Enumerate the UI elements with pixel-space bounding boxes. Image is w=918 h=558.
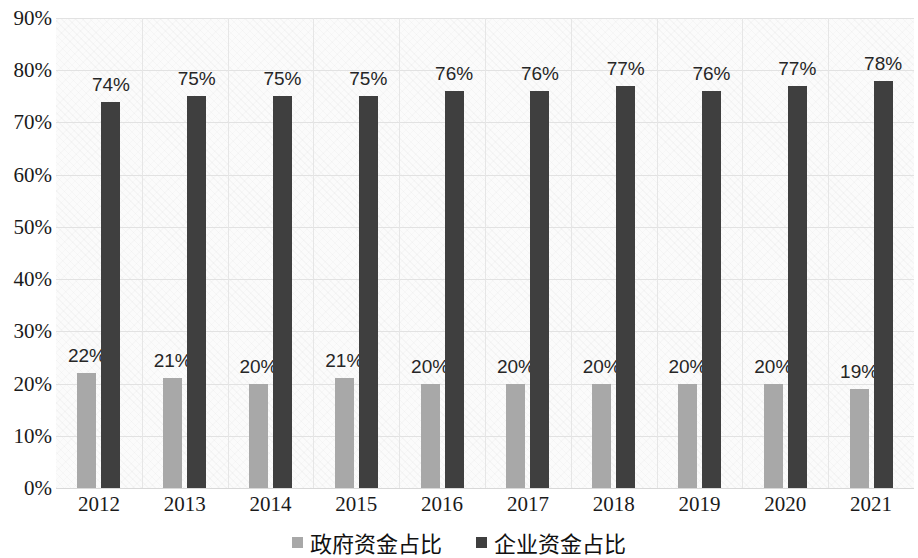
bar-ent[interactable]	[273, 96, 292, 488]
x-axis-tick-label: 2013	[142, 492, 228, 517]
bar-group: 21%75%	[313, 18, 399, 488]
y-axis-tick-label: 90%	[0, 6, 52, 31]
legend-item[interactable]: 政府资金占比	[292, 526, 442, 558]
bar-gov[interactable]	[335, 378, 354, 488]
bar-value-label: 78%	[856, 53, 910, 75]
y-axis-tick-label: 50%	[0, 214, 52, 239]
plot-area: 22%74%21%75%20%75%21%75%20%76%20%76%20%7…	[56, 18, 914, 488]
bar-group: 20%77%	[742, 18, 828, 488]
bar-value-label: 75%	[170, 68, 224, 90]
y-axis-tick-label: 20%	[0, 371, 52, 396]
x-axis-tick-label: 2015	[313, 492, 399, 517]
bar-ent[interactable]	[788, 86, 807, 488]
bar-ent[interactable]	[359, 96, 378, 488]
y-axis-tick-label: 80%	[0, 58, 52, 83]
bar-group: 19%78%	[828, 18, 914, 488]
bar-group: 21%75%	[142, 18, 228, 488]
chart-legend: 政府资金占比企业资金占比	[0, 526, 918, 558]
bar-gov[interactable]	[506, 384, 525, 488]
bar-group: 22%74%	[56, 18, 142, 488]
x-axis-tick-label: 2017	[485, 492, 571, 517]
x-axis: 2012201320142015201620172018201920202021	[56, 492, 914, 522]
bar-ent[interactable]	[530, 91, 549, 488]
x-axis-tick-label: 2019	[657, 492, 743, 517]
y-axis-tick-label: 40%	[0, 267, 52, 292]
bar-value-label: 77%	[599, 58, 653, 80]
bar-gov[interactable]	[163, 378, 182, 488]
bar-gov[interactable]	[678, 384, 697, 488]
bar-gov[interactable]	[850, 389, 869, 488]
x-axis-tick-label: 2021	[828, 492, 914, 517]
legend-item[interactable]: 企业资金占比	[476, 526, 626, 558]
bar-ent[interactable]	[702, 91, 721, 488]
bar-value-label: 74%	[84, 74, 138, 96]
bar-ent[interactable]	[874, 81, 893, 488]
bar-group: 20%76%	[485, 18, 571, 488]
y-axis-tick-label: 60%	[0, 162, 52, 187]
bar-group: 20%77%	[571, 18, 657, 488]
legend-label: 企业资金占比	[494, 526, 626, 558]
legend-swatch-icon	[476, 537, 487, 548]
bar-group: 20%76%	[657, 18, 743, 488]
legend-swatch-icon	[292, 537, 303, 548]
x-axis-tick-label: 2014	[228, 492, 314, 517]
bar-ent[interactable]	[187, 96, 206, 488]
bar-value-label: 75%	[255, 68, 309, 90]
x-axis-tick-label: 2016	[399, 492, 485, 517]
legend-label: 政府资金占比	[310, 526, 442, 558]
y-axis: 0%10%20%30%40%50%60%70%80%90%	[0, 18, 52, 488]
bar-ent[interactable]	[445, 91, 464, 488]
bar-gov[interactable]	[421, 384, 440, 488]
y-axis-tick-label: 70%	[0, 110, 52, 135]
bar-value-label: 76%	[427, 63, 481, 85]
bar-ent[interactable]	[101, 102, 120, 488]
x-axis-tick-label: 2020	[742, 492, 828, 517]
bar-value-label: 76%	[513, 63, 567, 85]
x-axis-tick-label: 2018	[571, 492, 657, 517]
bar-value-label: 75%	[341, 68, 395, 90]
bar-gov[interactable]	[249, 384, 268, 488]
y-axis-tick-label: 10%	[0, 423, 52, 448]
bar-group: 20%76%	[399, 18, 485, 488]
gridline	[56, 488, 914, 489]
bar-gov[interactable]	[592, 384, 611, 488]
bar-gov[interactable]	[77, 373, 96, 488]
bar-gov[interactable]	[764, 384, 783, 488]
bar-ent[interactable]	[616, 86, 635, 488]
bar-group: 20%75%	[228, 18, 314, 488]
bar-value-label: 76%	[684, 63, 738, 85]
y-axis-tick-label: 0%	[0, 476, 52, 501]
x-axis-tick-label: 2012	[56, 492, 142, 517]
y-axis-tick-label: 30%	[0, 319, 52, 344]
bar-value-label: 77%	[770, 58, 824, 80]
